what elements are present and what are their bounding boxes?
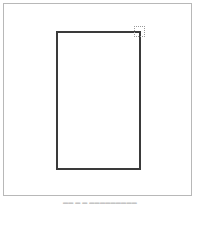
caption-text: ▬▬ ▬ ▬ ▬▬▬▬▬▬▬▬▬ xyxy=(0,199,200,205)
resize-handle-icon[interactable] xyxy=(134,26,145,37)
page-rectangle[interactable] xyxy=(56,31,141,170)
